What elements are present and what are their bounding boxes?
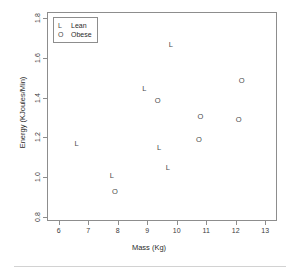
data-point-obese: O bbox=[236, 116, 242, 123]
data-point-obese: O bbox=[112, 188, 118, 195]
plot-data-area: LLLLLLOOOOOO bbox=[47, 12, 277, 221]
data-point-lean: L bbox=[110, 172, 114, 179]
legend-item-obese: OObese bbox=[58, 30, 92, 39]
x-axis-tick-label: 10 bbox=[173, 227, 181, 234]
legend-label: Obese bbox=[68, 31, 92, 38]
legend: LLeanOObese bbox=[53, 17, 98, 43]
x-axis-tick bbox=[88, 221, 89, 225]
x-axis-tick bbox=[265, 221, 266, 225]
y-axis-tick bbox=[43, 98, 47, 99]
scatter-plot-figure: LLLLLLOOOOOO LLeanOObese Energy (KJoules… bbox=[0, 0, 298, 277]
x-axis-tick-label: 9 bbox=[145, 227, 149, 234]
data-point-lean: L bbox=[157, 144, 161, 151]
data-point-obese: O bbox=[155, 96, 161, 103]
y-axis-tick bbox=[43, 137, 47, 138]
x-axis-tick-label: 13 bbox=[261, 227, 269, 234]
y-axis-tick-label: 1.8 bbox=[34, 11, 41, 25]
data-point-obese: O bbox=[196, 136, 202, 143]
x-axis-tick bbox=[236, 221, 237, 225]
x-axis-tick-label: 6 bbox=[57, 227, 61, 234]
data-point-lean: L bbox=[142, 84, 146, 91]
legend-label: Lean bbox=[68, 22, 87, 29]
data-point-obese: O bbox=[197, 112, 203, 119]
x-axis-tick-label: 7 bbox=[86, 227, 90, 234]
y-axis-title: Energy (KJoules/Min) bbox=[18, 43, 27, 183]
data-point-obese: O bbox=[239, 76, 245, 83]
x-axis-tick bbox=[118, 221, 119, 225]
y-axis-tick-label: 0.8 bbox=[34, 210, 41, 224]
legend-symbol-icon: O bbox=[58, 31, 68, 38]
data-point-lean: L bbox=[169, 40, 173, 47]
y-axis-tick bbox=[43, 18, 47, 19]
y-axis-tick-label: 1.0 bbox=[34, 170, 41, 184]
x-axis-tick bbox=[59, 221, 60, 225]
data-point-lean: L bbox=[166, 164, 170, 171]
x-axis-tick-label: 11 bbox=[203, 227, 210, 234]
y-axis-tick bbox=[43, 217, 47, 218]
y-axis-tick-label: 1.4 bbox=[34, 91, 41, 105]
x-axis-tick bbox=[147, 221, 148, 225]
y-axis-tick bbox=[43, 177, 47, 178]
y-axis-tick-label: 1.6 bbox=[34, 51, 41, 65]
legend-symbol-icon: L bbox=[58, 22, 68, 29]
x-axis-tick bbox=[177, 221, 178, 225]
data-point-lean: L bbox=[74, 140, 78, 147]
x-axis-title: Mass (Kg) bbox=[0, 243, 298, 252]
legend-item-lean: LLean bbox=[58, 21, 92, 30]
y-axis-tick-label: 1.2 bbox=[34, 130, 41, 144]
footer-divider bbox=[14, 266, 286, 267]
x-axis-tick bbox=[206, 221, 207, 225]
y-axis-tick bbox=[43, 58, 47, 59]
x-axis-tick-label: 8 bbox=[116, 227, 120, 234]
x-axis-tick-label: 12 bbox=[232, 227, 240, 234]
